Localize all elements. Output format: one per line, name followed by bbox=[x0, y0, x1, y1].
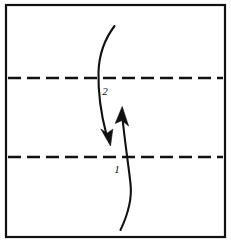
diagram-canvas: 2 1 bbox=[0, 0, 231, 242]
square-paper-sheet bbox=[6, 5, 225, 237]
fold-order-label-1: 1 bbox=[114, 163, 120, 175]
fold-order-label-2: 2 bbox=[102, 85, 108, 97]
origami-diagram: 2 1 bbox=[0, 0, 231, 242]
